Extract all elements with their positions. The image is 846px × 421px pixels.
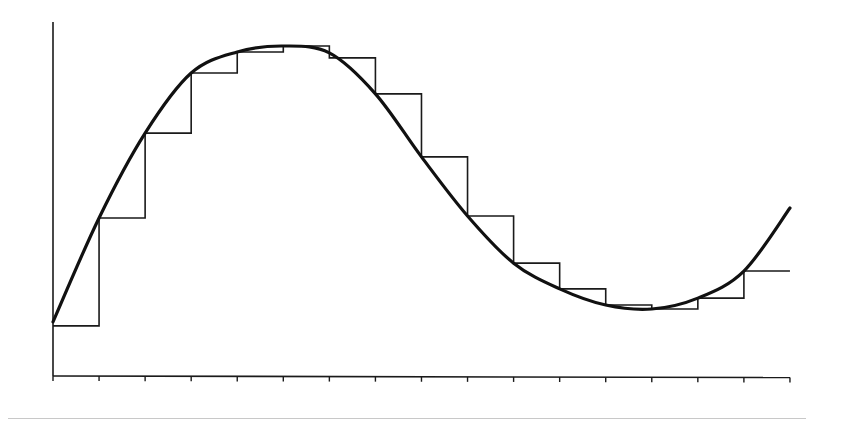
page-divider	[8, 418, 806, 419]
step-approximation-chart	[0, 0, 846, 421]
continuous-curve-line	[53, 46, 790, 322]
axes	[53, 22, 790, 383]
step-function-line	[53, 46, 790, 326]
